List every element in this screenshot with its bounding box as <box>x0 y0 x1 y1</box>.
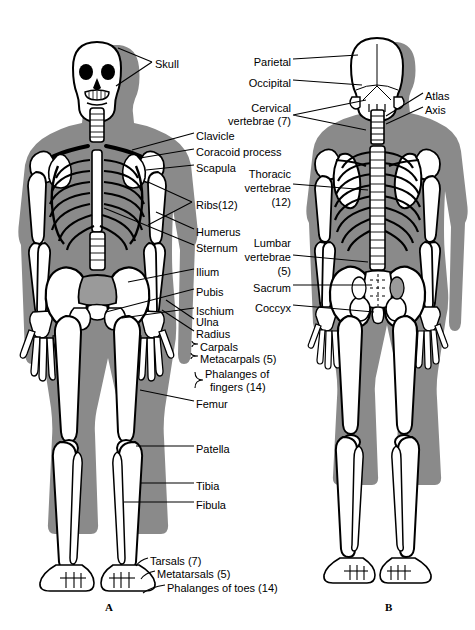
skeleton-artwork <box>0 0 475 630</box>
panel-label-a: A <box>105 601 113 613</box>
label-axis: Axis <box>425 104 446 116</box>
label-clavicle: Clavicle <box>196 130 235 142</box>
spine-anterior <box>90 232 105 270</box>
cervical-spine-anterior <box>90 108 104 142</box>
label-cervical-vertebrae-1: Cervical <box>251 102 291 114</box>
label-pubis: Pubis <box>196 286 224 298</box>
label-coracoid-process: Coracoid process <box>196 146 282 158</box>
label-skull: Skull <box>155 58 179 70</box>
label-radius: Radius <box>196 328 230 340</box>
sacrum-anterior <box>79 275 117 306</box>
label-parietal: Parietal <box>254 56 291 68</box>
label-sacrum: Sacrum <box>253 282 291 294</box>
label-tarsals: Tarsals (7) <box>150 555 201 567</box>
label-carpals: Carpals <box>200 341 238 353</box>
label-lumbar-vertebrae-2: vertebrae <box>245 251 291 263</box>
label-ribs: Ribs(12) <box>196 199 238 211</box>
skeleton-diagram: SkullClavicleCoracoid processScapulaRibs… <box>0 0 475 630</box>
sternum-bone <box>92 150 102 232</box>
label-lumbar-vertebrae-3: (5) <box>278 265 291 277</box>
label-thoracic-vertebrae-3: (12) <box>271 196 291 208</box>
label-occipital: Occipital <box>249 77 291 89</box>
label-phalanges-fingers-1: Phalanges of <box>205 368 269 380</box>
label-phalanges-toes: Phalanges of toes (14) <box>167 582 278 594</box>
label-sternum: Sternum <box>196 242 238 254</box>
label-tibia: Tibia <box>196 480 219 492</box>
label-metacarpals: Metacarpals (5) <box>200 353 276 365</box>
label-metatarsals: Metatarsals (5) <box>157 568 230 580</box>
label-thoracic-vertebrae-2: vertebrae <box>245 182 291 194</box>
label-ulna: Ulna <box>196 316 219 328</box>
label-humerus: Humerus <box>196 226 241 238</box>
panel-label-b: B <box>385 601 392 613</box>
skull-posterior <box>350 38 404 121</box>
label-thoracic-vertebrae-1: Thoracic <box>249 168 291 180</box>
label-ilium: Ilium <box>196 266 219 278</box>
label-lumbar-vertebrae-1: Lumbar <box>254 237 291 249</box>
label-fibula: Fibula <box>196 499 226 511</box>
label-coccyx: Coccyx <box>255 302 291 314</box>
label-atlas: Atlas <box>425 90 449 102</box>
vertebral-column-posterior <box>370 146 385 270</box>
label-scapula: Scapula <box>196 162 236 174</box>
label-cervical-vertebrae-2: vertebrae (7) <box>228 115 291 127</box>
label-phalanges-fingers-2: fingers (14) <box>210 381 266 393</box>
cervical-spine-posterior <box>371 110 384 144</box>
label-femur: Femur <box>196 398 228 410</box>
label-patella: Patella <box>196 443 230 455</box>
coccyx-posterior <box>372 307 384 324</box>
